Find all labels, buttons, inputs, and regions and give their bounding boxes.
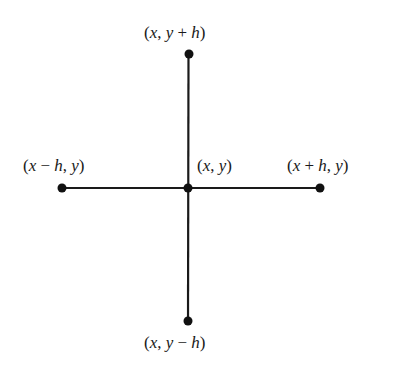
stencil-diagram: (x, y + h) (x − h, y) (x, y) (x + h, y) … <box>0 0 396 373</box>
point-top <box>185 50 194 59</box>
point-center <box>184 184 193 193</box>
label-bottom: (x, y − h) <box>144 334 206 351</box>
label-top: (x, y + h) <box>144 24 206 41</box>
label-left: (x − h, y) <box>23 157 85 174</box>
point-right <box>316 184 325 193</box>
point-left <box>58 184 67 193</box>
stencil-graphic <box>0 0 396 373</box>
point-bottom <box>184 317 193 326</box>
label-center: (x, y) <box>197 157 232 174</box>
label-right: (x + h, y) <box>287 157 349 174</box>
